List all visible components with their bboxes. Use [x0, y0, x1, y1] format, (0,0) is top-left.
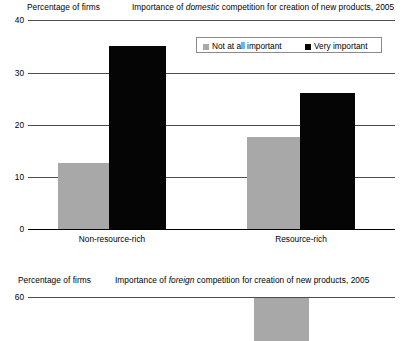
plot-area — [0, 0, 403, 229]
panel2-title-suffix: competition for creation of new products… — [194, 275, 369, 285]
legend-label-not-important: Not at all important — [212, 41, 282, 51]
legend: Not at all important Very important — [196, 37, 382, 53]
bar-non-resource-rich-not-important[interactable] — [58, 163, 109, 229]
figure-container: Percentage of firms Importance of domest… — [0, 0, 403, 341]
xtick-label-resource-rich: Resource-rich — [241, 234, 361, 244]
legend-swatch-gray — [203, 44, 209, 50]
legend-item-not-important[interactable]: Not at all important — [203, 41, 282, 51]
bar-resource-rich-very-important[interactable] — [300, 93, 355, 229]
bar-non-resource-rich-very-important[interactable] — [109, 46, 166, 229]
xtick-label-non-resource-rich: Non-resource-rich — [52, 234, 172, 244]
bar-foreign-not-important[interactable] — [254, 298, 309, 341]
ytick-label-60: 60 — [0, 293, 24, 301]
panel2-title-emphasis: foreign — [169, 275, 195, 285]
legend-swatch-black — [305, 44, 311, 50]
panel2-chart-title: Importance of foreign competition for cr… — [115, 275, 369, 285]
chart-panel-foreign: Percentage of firms Importance of foreig… — [0, 266, 403, 341]
bar-resource-rich-not-important[interactable] — [247, 137, 300, 229]
chart-panel-domestic: Percentage of firms Importance of domest… — [0, 0, 403, 258]
legend-item-very-important[interactable]: Very important — [305, 41, 368, 51]
legend-label-very-important: Very important — [314, 41, 368, 51]
panel2-y-axis-title: Percentage of firms — [18, 275, 91, 285]
axis-baseline-0 — [28, 229, 395, 230]
panel2-title-prefix: Importance of — [115, 275, 169, 285]
gridline-60 — [28, 297, 395, 298]
